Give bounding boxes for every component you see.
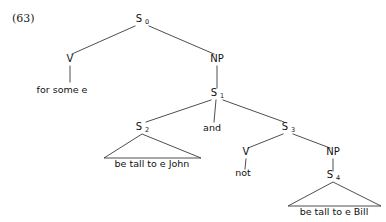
node-s3-label: S xyxy=(282,121,288,132)
terminal-be-tall-to-e-bill: be tall to e Bill xyxy=(300,206,369,217)
terminals-group: for some e be tall to e John and not be … xyxy=(37,84,369,217)
node-s4: S 4 xyxy=(327,169,340,182)
node-np-top-label: NP xyxy=(210,53,224,64)
node-s2: S 2 xyxy=(136,121,149,134)
node-v-right: V xyxy=(243,146,250,157)
edge-s1-to-and xyxy=(214,100,216,122)
node-s2-subscript: 2 xyxy=(145,126,149,134)
node-np-right-label: NP xyxy=(326,146,340,157)
node-np-top: NP xyxy=(210,53,224,64)
node-s4-subscript: 4 xyxy=(336,174,340,182)
node-s1-label: S xyxy=(211,87,217,98)
edge-s3-to-np xyxy=(293,134,330,148)
node-np-right: NP xyxy=(326,146,340,157)
terminal-for-some-e: for some e xyxy=(37,84,88,95)
node-s3: S 3 xyxy=(282,121,295,134)
terminal-be-tall-to-e-john: be tall to e John xyxy=(115,158,190,169)
node-s0: S 0 xyxy=(136,13,149,26)
terminal-and: and xyxy=(203,122,221,133)
terminal-not: not xyxy=(235,167,251,178)
node-s0-label: S xyxy=(136,13,142,24)
edge-s0-to-np xyxy=(149,26,214,54)
node-s3-subscript: 3 xyxy=(291,126,295,134)
example-number-label: (63) xyxy=(12,12,35,25)
node-v-right-label: V xyxy=(243,146,250,157)
edge-s0-to-v xyxy=(72,26,135,54)
node-v-top: V xyxy=(67,53,74,64)
edge-s3-to-v xyxy=(248,134,283,148)
branch-lines-group xyxy=(70,26,333,171)
s4-elision-triangle xyxy=(288,182,381,206)
syntax-tree-diagram: (63) S 0 V xyxy=(0,0,386,222)
edge-s1-to-s3 xyxy=(223,100,284,122)
edge-s1-to-s2 xyxy=(146,100,211,122)
figure-container: (63) S 0 V xyxy=(0,0,386,222)
node-s4-label: S xyxy=(327,169,333,180)
node-s0-subscript: 0 xyxy=(145,18,149,26)
node-s2-label: S xyxy=(136,121,142,132)
s2-elision-triangle xyxy=(104,134,201,158)
node-s1: S 1 xyxy=(211,87,224,100)
node-v-top-label: V xyxy=(67,53,74,64)
node-s1-subscript: 1 xyxy=(220,92,224,100)
